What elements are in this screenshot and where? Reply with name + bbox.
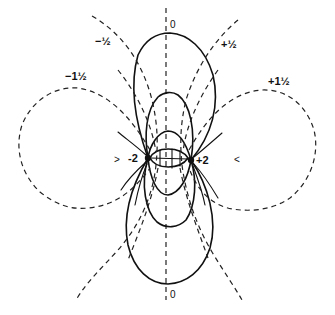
zero-label-top: 0: [170, 19, 176, 30]
negative-charge-dot: [145, 155, 151, 161]
field-diagram: -2 +2 0 0 −½ +½ −1½ +1½ > <: [0, 0, 335, 315]
positive-charge-dot: [188, 157, 194, 163]
left-side-mark: >: [114, 154, 120, 165]
right-side-mark: <: [234, 154, 240, 165]
plus-half-label: +½: [221, 38, 237, 50]
equipotential-plus-one-half: [189, 90, 316, 210]
equipotential-minus-one-half: [19, 88, 150, 209]
right-stub-lower: [194, 164, 218, 198]
central-axis-line: [150, 158, 189, 159]
positive-charge-label: +2: [196, 154, 209, 166]
minus-half-label: −½: [95, 35, 111, 47]
negative-charge-label: -2: [128, 152, 138, 164]
plus-one-half-label: +1½: [268, 75, 290, 87]
zero-label-bottom: 0: [170, 289, 176, 300]
minus-one-half-label: −1½: [65, 70, 87, 82]
